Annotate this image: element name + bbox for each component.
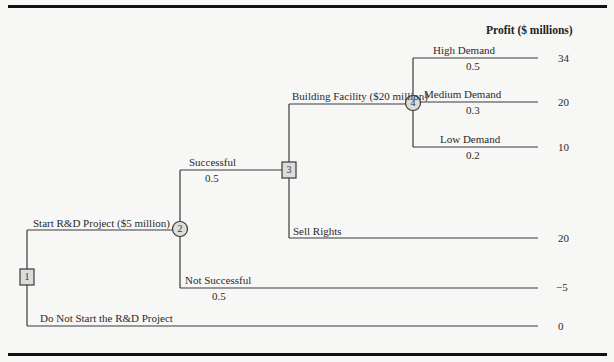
not-successful-payoff: −5 bbox=[556, 281, 568, 293]
node-2-label: 2 bbox=[173, 223, 187, 234]
decision-tree-lines bbox=[0, 0, 614, 362]
bottom-rule bbox=[8, 353, 607, 356]
top-rule bbox=[8, 5, 607, 8]
start-rd-label: Start R&D Project ($5 million) bbox=[33, 217, 170, 229]
low-demand-payoff: 10 bbox=[558, 141, 569, 153]
profit-header: Profit ($ millions) bbox=[486, 24, 573, 36]
node-3-label: 3 bbox=[282, 164, 296, 175]
medium-demand-prob: 0.3 bbox=[466, 104, 480, 116]
high-demand-label: High Demand bbox=[433, 44, 495, 56]
low-demand-prob: 0.2 bbox=[466, 149, 480, 161]
successful-label: Successful bbox=[189, 156, 236, 168]
low-demand-label: Low Demand bbox=[440, 133, 500, 145]
high-demand-prob: 0.5 bbox=[466, 60, 480, 72]
medium-demand-payoff: 20 bbox=[558, 96, 569, 108]
high-demand-payoff: 34 bbox=[558, 52, 569, 64]
do-not-start-label: Do Not Start the R&D Project bbox=[40, 312, 173, 324]
sell-rights-label: Sell Rights bbox=[293, 225, 342, 237]
not-successful-prob: 0.5 bbox=[212, 290, 226, 302]
not-successful-label: Not Successful bbox=[185, 274, 251, 286]
building-facility-label: Building Facility ($20 million) bbox=[292, 90, 428, 102]
successful-prob: 0.5 bbox=[205, 172, 219, 184]
medium-demand-label: Medium Demand bbox=[424, 88, 501, 100]
do-not-start-payoff: 0 bbox=[558, 320, 564, 332]
node-1-label: 1 bbox=[20, 271, 34, 282]
sell-rights-payoff: 20 bbox=[558, 232, 569, 244]
